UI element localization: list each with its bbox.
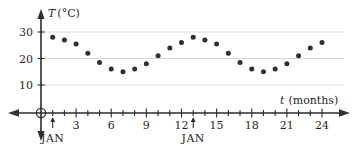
- data-point: [202, 37, 207, 42]
- data-point: [62, 37, 67, 42]
- data-point: [132, 67, 137, 72]
- data-point: [214, 41, 219, 46]
- data-point: [226, 51, 231, 56]
- gridlines: [41, 32, 344, 85]
- data-point: [156, 53, 161, 58]
- data-point: [167, 45, 172, 50]
- jan-arrow-head: [191, 117, 196, 122]
- y-tick-label-30: 30: [19, 26, 33, 39]
- data-point: [308, 45, 313, 50]
- y-axis: [37, 9, 44, 141]
- data-point: [120, 69, 125, 74]
- x-axis-unit: (months): [288, 94, 338, 107]
- jan-annotation-label: JAN: [181, 132, 205, 145]
- data-point: [179, 40, 184, 45]
- x-tick-label-3: 3: [73, 119, 80, 132]
- x-tick-labels: 3691215182124: [73, 119, 329, 132]
- x-axis-symbol: t: [280, 94, 285, 107]
- y-axis-unit: (°C): [57, 7, 80, 20]
- y-axis-symbol: T: [48, 7, 57, 20]
- x-tick-label-18: 18: [245, 119, 259, 132]
- x-axis-title: t(months): [280, 94, 338, 107]
- data-point: [261, 69, 266, 74]
- data-point: [284, 61, 289, 66]
- data-point: [191, 35, 196, 40]
- data-point: [50, 35, 55, 40]
- data-point: [74, 41, 79, 46]
- jan-annotation-label: JAN: [40, 132, 64, 145]
- plot-canvas: 3691215182124 102030 JANJAN T(°C) t(mont…: [0, 0, 356, 146]
- data-point: [144, 61, 149, 66]
- data-point: [273, 67, 278, 72]
- y-tick-label-10: 10: [19, 79, 33, 92]
- x-tick-label-9: 9: [143, 119, 150, 132]
- y-axis-arrow-up: [37, 9, 44, 19]
- y-axis-title: T(°C): [48, 7, 80, 20]
- x-axis-arrow-right: [339, 109, 350, 117]
- data-point: [85, 51, 90, 56]
- jan-arrow-head: [50, 117, 55, 122]
- x-tick-label-21: 21: [280, 119, 294, 132]
- x-tick-label-15: 15: [210, 119, 224, 132]
- data-point: [296, 53, 301, 58]
- data-point: [249, 67, 254, 72]
- data-point: [238, 60, 243, 65]
- x-tick-label-24: 24: [315, 119, 329, 132]
- data-point: [97, 60, 102, 65]
- x-axis-arrow-left: [8, 109, 19, 117]
- y-tick-labels: 102030: [19, 26, 33, 92]
- temperature-scatter-figure: 3691215182124 102030 JANJAN T(°C) t(mont…: [0, 0, 356, 146]
- x-tick-label-6: 6: [108, 119, 115, 132]
- data-point: [109, 67, 114, 72]
- data-point: [319, 40, 324, 45]
- data-point-series: [50, 35, 324, 74]
- x-tick-label-12: 12: [174, 119, 188, 132]
- y-tick-label-20: 20: [19, 53, 33, 66]
